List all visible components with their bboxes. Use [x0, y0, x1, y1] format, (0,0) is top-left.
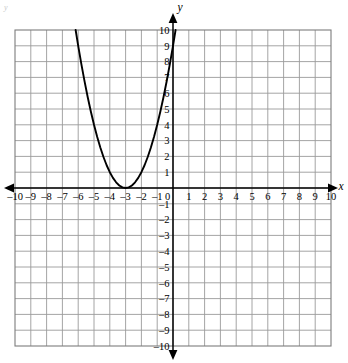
y-tick-label: –10	[153, 341, 170, 352]
x-tick-label: 10	[326, 191, 337, 202]
y-tick-label: 3	[164, 135, 169, 146]
x-tick-label: –3	[119, 191, 131, 202]
x-axis-name-label: x	[337, 180, 344, 192]
y-tick-label: 1	[164, 167, 169, 178]
x-tick-label: –7	[56, 191, 68, 202]
y-tick-label: 4	[164, 120, 170, 131]
x-axis-tick-labels: –10–9–8–7–6–5–4–3–2–1012345678910	[6, 191, 336, 202]
y-tick-label: 7	[164, 72, 169, 83]
y-tick-label: 2	[164, 151, 169, 162]
y-tick-label: 9	[164, 41, 169, 52]
y-tick-label: –6	[158, 278, 170, 289]
x-tick-label: 9	[313, 191, 318, 202]
y-tick-label: –5	[158, 262, 170, 273]
y-tick-label: 6	[164, 88, 169, 99]
y-tick-label: –1	[158, 199, 170, 210]
corner-artifact-mark: y	[3, 3, 8, 12]
graph-canvas: y –10–9–8–7–6–5–4–3–2–1012345678910 1098…	[0, 0, 348, 363]
x-tick-label: 1	[186, 191, 191, 202]
y-tick-label: –8	[158, 309, 170, 320]
y-tick-label: –9	[158, 325, 170, 336]
y-tick-label: –7	[158, 293, 170, 304]
y-tick-label: 10	[159, 25, 170, 36]
x-tick-label: 3	[218, 191, 223, 202]
x-tick-label: 8	[297, 191, 302, 202]
x-tick-label: –6	[72, 191, 84, 202]
x-tick-label: –9	[25, 191, 37, 202]
y-tick-label: 8	[164, 56, 169, 67]
x-tick-label: 5	[249, 191, 254, 202]
y-tick-label: –4	[158, 246, 170, 257]
x-tick-label: 7	[281, 191, 286, 202]
x-tick-label: 2	[202, 191, 207, 202]
coordinate-plane-graph: y –10–9–8–7–6–5–4–3–2–1012345678910 1098…	[0, 0, 348, 363]
x-tick-label: –8	[40, 191, 52, 202]
x-tick-label: 6	[265, 191, 270, 202]
y-axis-arrow-up	[169, 13, 178, 23]
y-tick-label: –2	[158, 214, 170, 225]
x-tick-label: –5	[88, 191, 100, 202]
axes	[4, 13, 338, 360]
y-tick-label: –3	[158, 230, 170, 241]
x-tick-label: –4	[104, 191, 116, 202]
y-tick-label: 5	[164, 104, 169, 115]
x-tick-label: –2	[135, 191, 147, 202]
x-tick-label: –10	[6, 191, 23, 202]
y-axis-name-label: y	[176, 1, 183, 14]
y-axis-arrow-down	[169, 350, 178, 360]
x-tick-label: 4	[234, 191, 240, 202]
